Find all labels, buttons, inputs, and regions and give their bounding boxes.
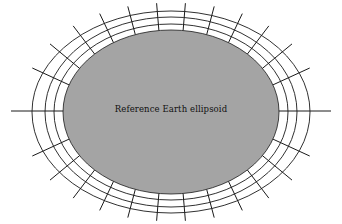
radial-line (157, 194, 159, 221)
ellipsoid-label: Reference Earth ellipsoid (0, 104, 342, 114)
radial-line (183, 194, 185, 221)
radial-line (262, 44, 292, 69)
radial-line (262, 156, 292, 181)
radial-line (207, 6, 215, 34)
radial-line (157, 3, 159, 30)
radial-line (183, 3, 185, 30)
radial-line (207, 189, 215, 217)
radial-line (50, 44, 80, 69)
radial-line (128, 6, 136, 34)
radial-line (128, 189, 136, 217)
radial-line (50, 156, 80, 181)
